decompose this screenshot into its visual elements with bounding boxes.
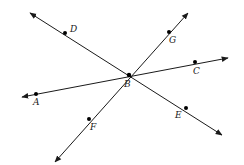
label-g: G xyxy=(169,35,176,45)
line-AC xyxy=(22,58,228,97)
label-a: A xyxy=(32,97,40,107)
point-f xyxy=(87,117,91,121)
label-b: B xyxy=(123,79,131,89)
diagram-canvas: DGCAFEB xyxy=(0,0,244,165)
point-g xyxy=(167,30,171,34)
point-b xyxy=(127,73,131,77)
point-e xyxy=(184,106,188,110)
label-d: D xyxy=(69,24,77,34)
labels-group: DGCAFEB xyxy=(32,24,200,132)
label-f: F xyxy=(89,122,97,132)
label-c: C xyxy=(193,66,200,76)
point-a xyxy=(34,92,38,96)
point-d xyxy=(63,31,67,35)
point-c xyxy=(193,60,197,64)
label-e: E xyxy=(174,110,182,120)
geometry-diagram: DGCAFEB xyxy=(0,0,244,165)
